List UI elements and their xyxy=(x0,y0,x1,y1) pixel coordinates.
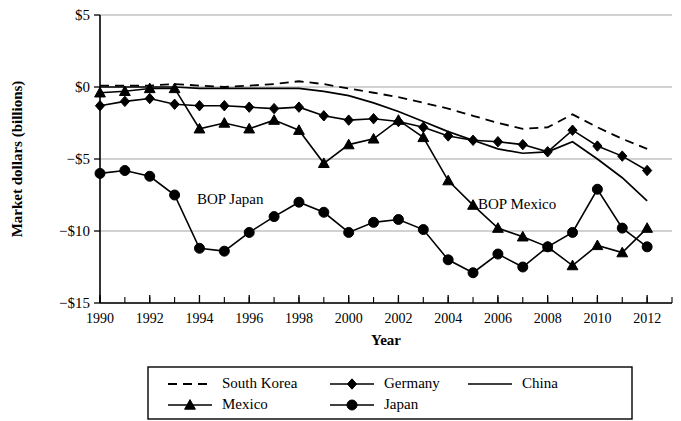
y-tick-label: −$5 xyxy=(67,151,90,167)
legend-label: Mexico xyxy=(222,396,268,412)
marker-diamond xyxy=(344,115,353,125)
marker-diamond xyxy=(220,101,229,111)
marker-circle xyxy=(592,184,602,194)
series-mexico xyxy=(95,83,653,270)
marker-circle xyxy=(393,214,403,224)
marker-circle xyxy=(120,166,130,176)
x-tick-label: 2012 xyxy=(633,311,661,326)
x-tick-label: 2008 xyxy=(534,311,562,326)
marker-circle xyxy=(294,197,304,207)
legend-label: China xyxy=(522,375,558,391)
y-tick-label: $0 xyxy=(75,79,90,95)
marker-triangle xyxy=(418,132,429,142)
marker-circle xyxy=(244,227,254,237)
chart-annotation: BOP Mexico xyxy=(478,196,556,212)
y-tick-label: −$15 xyxy=(59,295,90,311)
x-tick-label: 2010 xyxy=(583,311,611,326)
y-axis-title: Market dollars (billions) xyxy=(9,81,26,238)
marker-diamond xyxy=(518,139,527,149)
chart-figure: $5$0−$5−$10−$151990199219941996199820002… xyxy=(0,0,681,421)
chart-canvas: $5$0−$5−$10−$151990199219941996199820002… xyxy=(0,0,681,421)
marker-circle xyxy=(369,217,379,227)
marker-diamond xyxy=(618,151,627,161)
marker-circle xyxy=(543,242,553,252)
y-tick-label: −$10 xyxy=(59,223,90,239)
legend-label: Germany xyxy=(384,375,440,391)
marker-diamond xyxy=(643,165,652,175)
x-tick-label: 1994 xyxy=(185,311,213,326)
marker-circle xyxy=(145,171,155,181)
marker-diamond xyxy=(369,113,378,123)
x-tick-label: 1998 xyxy=(285,311,313,326)
x-tick-label: 2004 xyxy=(434,311,462,326)
marker-circle xyxy=(568,227,578,237)
marker-triangle xyxy=(393,115,404,125)
legend-label: Japan xyxy=(384,396,419,412)
marker-circle xyxy=(95,168,105,178)
marker-circle xyxy=(493,249,503,259)
marker-circle xyxy=(518,262,528,272)
x-tick-label: 1990 xyxy=(86,311,114,326)
marker-triangle xyxy=(642,223,653,233)
marker-triangle xyxy=(368,133,379,143)
marker-triangle xyxy=(269,115,280,125)
x-tick-label: 2006 xyxy=(484,311,512,326)
marker-circle xyxy=(194,243,204,253)
x-tick-label: 2002 xyxy=(384,311,412,326)
x-tick-label: 1992 xyxy=(136,311,164,326)
marker-diamond xyxy=(170,99,179,109)
marker-diamond xyxy=(269,103,278,113)
y-tick-label: $5 xyxy=(75,7,90,23)
marker-circle xyxy=(219,246,229,256)
marker-circle xyxy=(269,212,279,222)
x-tick-label: 2000 xyxy=(335,311,363,326)
marker-diamond xyxy=(120,96,129,106)
marker-circle xyxy=(170,190,180,200)
marker-diamond xyxy=(493,137,502,147)
marker-triangle xyxy=(294,125,305,135)
marker-diamond xyxy=(195,101,204,111)
marker-diamond xyxy=(95,101,104,111)
marker-diamond xyxy=(294,102,303,112)
marker-triangle xyxy=(219,118,230,128)
marker-circle xyxy=(344,227,354,237)
marker-circle xyxy=(347,400,357,410)
marker-circle xyxy=(418,225,428,235)
marker-circle xyxy=(319,207,329,217)
marker-diamond xyxy=(145,93,154,103)
marker-triangle xyxy=(443,175,454,185)
marker-triangle xyxy=(592,240,603,250)
series-japan xyxy=(95,166,652,278)
x-axis-title: Year xyxy=(371,332,401,348)
marker-circle xyxy=(617,223,627,233)
chart-annotation: BOP Japan xyxy=(197,191,264,207)
marker-circle xyxy=(642,242,652,252)
marker-diamond xyxy=(245,102,254,112)
x-tick-label: 1996 xyxy=(235,311,263,326)
marker-circle xyxy=(468,268,478,278)
marker-circle xyxy=(443,255,453,265)
legend-label: South Korea xyxy=(222,375,298,391)
marker-diamond xyxy=(319,111,328,121)
marker-diamond xyxy=(593,141,602,151)
